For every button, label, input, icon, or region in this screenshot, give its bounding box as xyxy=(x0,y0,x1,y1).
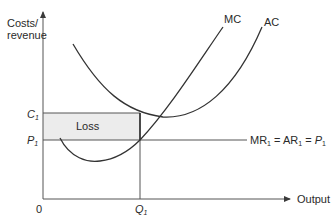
cost-revenue-diagram xyxy=(0,0,334,223)
mc-curve xyxy=(60,27,223,161)
loss-label: Loss xyxy=(76,120,99,132)
x-axis-label: Output xyxy=(297,193,330,205)
demand-line-label: MR1 = AR1 = P1 xyxy=(250,134,326,146)
ac-curve xyxy=(73,27,262,117)
p1-label: P1 xyxy=(27,134,38,146)
mc-label: MC xyxy=(224,13,241,25)
c1-label: C1 xyxy=(27,108,39,120)
q1-label: Q1 xyxy=(135,203,147,215)
origin-label: 0 xyxy=(36,203,42,215)
y-axis-label: Costs/ revenue xyxy=(7,17,47,41)
ac-label: AC xyxy=(264,16,279,28)
